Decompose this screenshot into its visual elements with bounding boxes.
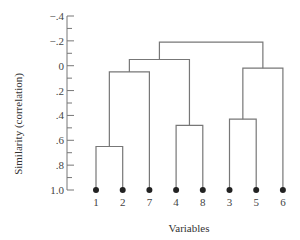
merge-link	[243, 68, 283, 190]
leaf-label: 1	[93, 196, 99, 208]
leaf-dot	[146, 187, 152, 193]
merge-link	[230, 119, 257, 190]
leaf-dot	[93, 187, 99, 193]
x-axis-title: Variables	[169, 222, 210, 234]
y-axis: −.4−.20.2.4.6.81.0	[50, 10, 74, 196]
leaf-label: 7	[147, 196, 153, 208]
y-axis-title: Similarity (correlation)	[12, 73, 25, 175]
leaf-label: 4	[173, 196, 179, 208]
dendrogram-tree	[96, 42, 283, 190]
y-tick-label: 1.0	[50, 184, 64, 196]
merge-link	[129, 60, 189, 126]
y-tick-label: .8	[56, 159, 65, 171]
merge-link	[96, 147, 123, 191]
dendrogram-chart: −.4−.20.2.4.6.81.0 12748356 Similarity (…	[0, 0, 300, 240]
y-tick-label: .4	[56, 109, 65, 121]
leaf-label: 8	[200, 196, 206, 208]
leaf-dot	[280, 187, 286, 193]
y-tick-label: −.4	[50, 10, 65, 22]
leaf-label: 3	[227, 196, 233, 208]
merge-link	[176, 125, 203, 190]
leaf-dot	[120, 187, 126, 193]
leaf-label: 6	[280, 196, 286, 208]
leaf-label: 5	[253, 196, 259, 208]
y-tick-label: −.2	[50, 35, 64, 47]
merge-link	[109, 72, 149, 190]
y-tick-label: .6	[56, 134, 65, 146]
leaf-dot	[227, 187, 233, 193]
y-tick-label: 0	[59, 60, 65, 72]
leaf-dot	[200, 187, 206, 193]
y-tick-label: .2	[56, 85, 64, 97]
leaf-nodes: 12748356	[93, 187, 286, 208]
merge-link	[159, 42, 262, 68]
leaf-dot	[173, 187, 179, 193]
leaf-label: 2	[120, 196, 126, 208]
leaf-dot	[253, 187, 259, 193]
